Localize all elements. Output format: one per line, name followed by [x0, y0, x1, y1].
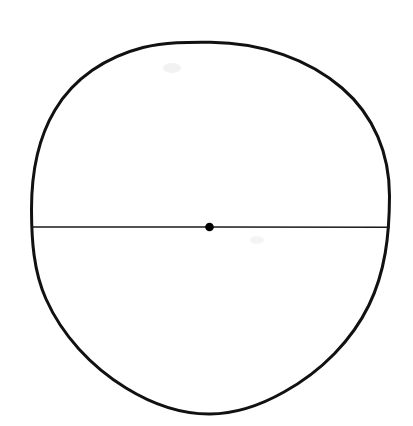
paper-background: [0, 0, 413, 426]
circle-diagram-svg: [0, 0, 413, 426]
pencil-smudge-upper-icon: [163, 63, 181, 73]
center-point-dot: [205, 223, 214, 232]
figure-canvas: [0, 0, 413, 426]
pencil-smudge-lower-icon: [250, 236, 264, 244]
